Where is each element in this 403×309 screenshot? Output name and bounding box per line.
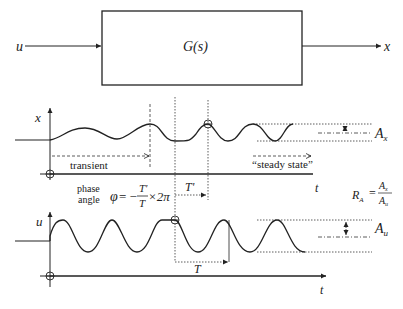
output-label-x: x xyxy=(383,39,391,54)
output-response-curve xyxy=(50,124,293,141)
block-diagram: u G(s) x xyxy=(16,11,391,85)
times-2pi: ×2π xyxy=(148,189,170,204)
frequency-response-diagram: u G(s) x x t Ax transient “stead xyxy=(0,0,403,309)
block-label: G(s) xyxy=(183,39,208,55)
phase-shift-indicator: T' xyxy=(175,180,206,195)
phase-denominator: T xyxy=(139,197,146,209)
phase-label-line1: phase xyxy=(77,183,100,194)
period-label: T xyxy=(194,262,202,276)
input-sinusoid-curve xyxy=(50,220,305,252)
transient-label: transient xyxy=(70,159,108,171)
output-y-axis-label: x xyxy=(34,110,41,125)
ratio-lhs: RA xyxy=(351,188,364,204)
phase-numerator: T' xyxy=(139,182,148,194)
input-amplitude-label: Au xyxy=(374,221,389,238)
output-x-axis-label: t xyxy=(315,181,319,195)
phase-shift-label: T' xyxy=(185,180,195,194)
input-label-u: u xyxy=(16,39,23,54)
input-y-axis-label: u xyxy=(36,214,43,229)
phase-label-line2: angle xyxy=(78,194,100,205)
output-amplitude-label: Ax xyxy=(374,126,388,143)
equals-minus: = − xyxy=(119,189,137,204)
ratio-denominator: Au xyxy=(378,195,388,207)
ratio-equals: = xyxy=(369,186,376,200)
phase-angle-formula: phase angle φ = − T' T ×2π xyxy=(77,182,170,209)
output-plot: x t Ax transient “steady state” xyxy=(15,100,388,200)
input-plot: u t Au T xyxy=(15,212,389,297)
steady-state-label: “steady state” xyxy=(252,158,313,170)
amplitude-ratio-formula: RA = Ax Au xyxy=(351,180,392,207)
ratio-numerator: Ax xyxy=(378,180,388,192)
phi-symbol: φ xyxy=(110,189,118,204)
input-x-axis-label: t xyxy=(320,283,324,297)
